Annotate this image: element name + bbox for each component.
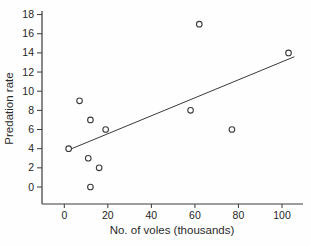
y-tick-label: 16 [22,27,34,39]
y-tick-label: 8 [28,104,34,116]
y-tick-label: 6 [28,123,34,135]
y-tick-label: 0 [28,181,34,193]
data-point [85,155,91,161]
y-tick-label: 14 [22,46,34,58]
y-tick-label: 2 [28,161,34,173]
x-tick-label: 40 [146,209,158,221]
x-axis-title: No. of voles (thousands) [72,223,272,238]
y-axis-title: Predation rate [2,34,17,184]
y-tick-label: 12 [22,66,34,78]
y-tick-label: 18 [22,8,34,20]
x-tick-label: 20 [102,209,114,221]
y-tick-label: 4 [28,142,34,154]
data-point [96,165,102,171]
chart-canvas: 024681012141618020406080100 [0,0,311,246]
data-point [196,21,202,27]
data-point [229,127,235,133]
trend-line [72,57,295,149]
x-tick-label: 100 [273,209,291,221]
data-point [88,184,94,190]
data-point [77,98,83,104]
data-point [286,50,292,56]
y-tick-label: 10 [22,85,34,97]
data-point [66,146,72,152]
data-point [188,108,194,114]
data-point [88,117,94,123]
x-tick-label: 80 [233,209,245,221]
scatter-figure: 024681012141618020406080100 Predation ra… [0,0,311,246]
x-tick-label: 0 [61,209,67,221]
x-tick-label: 60 [189,209,201,221]
data-point [103,127,109,133]
